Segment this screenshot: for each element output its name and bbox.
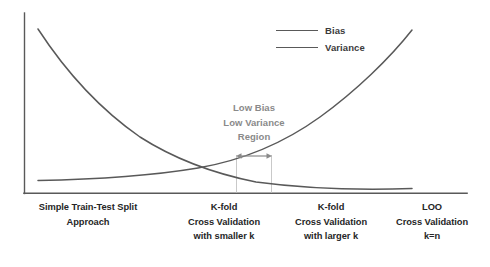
legend-line-swatch-bias xyxy=(276,30,318,31)
x-label-3-line-3: k=n xyxy=(378,229,486,244)
chart-legend: Bias Variance xyxy=(276,22,426,56)
annotation-line-3: Region xyxy=(196,130,312,145)
region-span-arrow xyxy=(236,153,272,159)
x-label-3-line-2: Cross Validation xyxy=(378,215,486,230)
low-bias-low-variance-region-annotation: Low Bias Low Variance Region xyxy=(196,101,312,145)
x-label-0-line-1: Simple Train-Test Split xyxy=(6,200,170,215)
x-axis-category-labels: Simple Train-Test Split Approach K-fold … xyxy=(0,200,490,260)
x-label-3-line-1: LOO xyxy=(378,200,486,215)
x-axis-label-loo-cross-validation: LOO Cross Validation k=n xyxy=(378,200,486,244)
legend-item-variance: Variance xyxy=(276,39,426,56)
x-axis-label-kfold-smaller-k: K-fold Cross Validation with smaller k xyxy=(166,200,282,244)
x-axis-label-kfold-larger-k: K-fold Cross Validation with larger k xyxy=(272,200,390,244)
legend-label-variance: Variance xyxy=(325,43,365,53)
x-label-2-line-3: with larger k xyxy=(272,229,390,244)
x-label-2-line-1: K-fold xyxy=(272,200,390,215)
x-label-1-line-3: with smaller k xyxy=(166,229,282,244)
x-label-0-line-2: Approach xyxy=(6,215,170,230)
x-label-2-line-2: Cross Validation xyxy=(272,215,390,230)
annotation-line-2: Low Variance xyxy=(196,116,312,131)
x-label-1-line-1: K-fold xyxy=(166,200,282,215)
bias-variance-tradeoff-figure: Bias Variance Low Bias Low Variance Regi… xyxy=(0,0,490,267)
legend-line-swatch-variance xyxy=(276,47,318,48)
x-axis-label-simple-train-test-split: Simple Train-Test Split Approach xyxy=(6,200,170,229)
annotation-line-1: Low Bias xyxy=(196,101,312,116)
legend-item-bias: Bias xyxy=(276,22,426,39)
x-label-1-line-2: Cross Validation xyxy=(166,215,282,230)
legend-label-bias: Bias xyxy=(325,26,345,36)
